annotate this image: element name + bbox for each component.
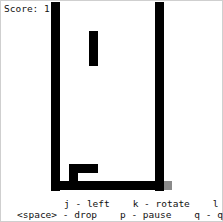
terminal-window: Score: 1 j - left k - rotate l - right <… bbox=[0, 0, 223, 222]
floor-corner-cell bbox=[164, 181, 172, 190]
score-label: Score: 1 bbox=[4, 3, 50, 14]
falling-piece bbox=[89, 31, 98, 66]
landed-piece-stem bbox=[69, 164, 78, 182]
right-wall bbox=[155, 2, 164, 191]
help-line-2: <space> - drop p - pause q - quit bbox=[17, 209, 223, 220]
floor bbox=[51, 181, 164, 190]
help-line-1: j - left k - rotate l - right bbox=[64, 198, 223, 209]
left-wall bbox=[51, 2, 60, 191]
